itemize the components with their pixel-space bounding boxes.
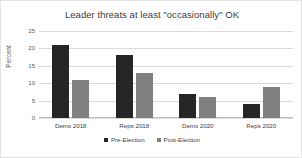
y-tick-label: 25 — [5, 28, 35, 34]
bar-group — [103, 31, 167, 118]
x-tick-label: Dems 2018 — [39, 122, 103, 129]
legend-swatch-icon — [157, 138, 161, 142]
y-tick-label: 15 — [5, 63, 35, 69]
bar-group — [39, 31, 103, 118]
y-tick-label: 20 — [5, 45, 35, 51]
bar-pre-election[interactable] — [243, 104, 260, 118]
y-axis-ticks: 0510152025 — [1, 31, 35, 118]
chart-legend: Pre-ElectionPost-Election — [1, 136, 302, 143]
x-tick-label: Reps 2018 — [103, 122, 167, 129]
bar-group — [230, 31, 294, 118]
legend-item[interactable]: Pre-Election — [104, 136, 145, 143]
x-tick-label: Reps 2020 — [230, 122, 294, 129]
legend-swatch-icon — [104, 138, 108, 142]
y-tick-label: 10 — [5, 80, 35, 86]
bar-pre-election[interactable] — [116, 55, 133, 118]
plot-area — [39, 31, 293, 118]
bar-post-election[interactable] — [72, 80, 89, 118]
x-tick-label: Dems 2020 — [166, 122, 230, 129]
legend-item[interactable]: Post-Election — [157, 136, 200, 143]
bar-pre-election[interactable] — [179, 94, 196, 118]
y-tick-label: 0 — [5, 115, 35, 121]
gridline — [39, 118, 293, 119]
legend-label: Pre-Election — [111, 136, 145, 143]
bar-chart-card: Leader threats at least "occasionally" O… — [0, 0, 302, 158]
bar-pre-election[interactable] — [52, 45, 69, 118]
y-tick-label: 5 — [5, 98, 35, 104]
bar-post-election[interactable] — [136, 73, 153, 118]
legend-label: Post-Election — [164, 136, 200, 143]
bar-group — [166, 31, 230, 118]
chart-title: Leader threats at least "occasionally" O… — [1, 9, 302, 20]
bar-post-election[interactable] — [199, 97, 216, 118]
bar-post-election[interactable] — [263, 87, 280, 118]
